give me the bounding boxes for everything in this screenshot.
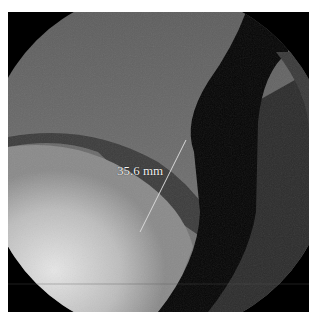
measurement-label: 35.6 mm [117,163,163,179]
fluoroscopy-image: 35.6 mm [8,12,309,312]
xray-field [8,12,309,312]
